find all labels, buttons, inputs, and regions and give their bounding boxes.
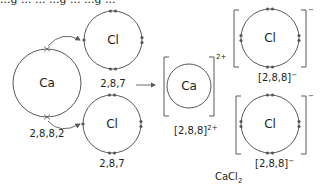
electron-dot <box>109 9 112 12</box>
chloride-ion-bottom: Cl − [2,8,8]− <box>236 92 314 169</box>
electron-dot <box>114 9 117 12</box>
calcium-ion-symbol: Ca <box>181 79 197 93</box>
chloride-top-configuration: [2,8,8]− <box>258 71 297 83</box>
electron-dot <box>239 34 242 37</box>
chlorine-top-configuration: 2,8,7 <box>100 78 125 89</box>
electron-dot <box>271 151 274 154</box>
chloride-top-symbol: Cl <box>264 31 276 45</box>
calcium-configuration: 2,8,8,2 <box>30 128 65 139</box>
electron-dot <box>297 120 300 123</box>
chlorine-top-symbol: Cl <box>107 33 119 47</box>
chloride-bottom-right-bracket <box>301 96 306 154</box>
electron-dot <box>239 39 242 42</box>
electron-dot <box>266 93 269 96</box>
electron-dot <box>139 125 142 128</box>
chloride-bottom-configuration: [2,8,8]− <box>255 157 294 169</box>
chlorine-bottom-symbol: Cl <box>106 117 118 131</box>
chlorine-atom-top: Cl 2,8,7 <box>82 9 143 89</box>
electron-dot <box>81 122 84 125</box>
calcium-ion: Ca 2+ [2,8,8]2+ <box>164 53 226 136</box>
ionic-bonding-diagram: ...g ... ... ...g ... ...g ... Ca 2,8,8,… <box>0 0 320 194</box>
chlorine-bottom-configuration: 2,8,7 <box>99 158 124 169</box>
electron-dot <box>139 120 142 123</box>
electron-dot <box>239 120 242 123</box>
product-formula: CaCl2 <box>215 171 242 185</box>
electron-dot <box>271 93 274 96</box>
calcium-ion-charge: 2+ <box>216 53 226 61</box>
chloride-top-charge: − <box>308 6 314 14</box>
calcium-ion-right-bracket <box>209 57 214 116</box>
electron-dot <box>140 36 143 39</box>
caption-fragment: ...g ... ... ...g ... ...g ... <box>0 0 116 6</box>
calcium-ion-configuration: [2,8,8]2+ <box>174 124 218 136</box>
electron-dot <box>271 7 274 10</box>
electron-dot <box>271 65 274 68</box>
calcium-symbol: Ca <box>39 76 55 90</box>
electron-dot <box>114 67 117 70</box>
electron-dot <box>266 7 269 10</box>
electron-dot <box>297 34 300 37</box>
chloride-bottom-charge: − <box>308 92 314 100</box>
calcium-atom: Ca 2,8,8,2 <box>13 47 81 140</box>
chloride-top-left-bracket <box>234 10 239 67</box>
electron-dot <box>266 65 269 68</box>
calcium-ion-left-bracket <box>164 57 169 116</box>
electron-dot <box>113 151 116 154</box>
chloride-bottom-left-bracket <box>236 96 241 154</box>
chloride-ion-top: Cl − [2,8,8]− <box>234 6 314 83</box>
chloride-bottom-symbol: Cl <box>264 117 276 131</box>
electron-dot <box>82 38 85 41</box>
electron-transfer-arrow-top <box>48 36 80 46</box>
electron-dot <box>108 151 111 154</box>
electron-dot <box>297 125 300 128</box>
electron-dot <box>109 67 112 70</box>
electron-dot <box>108 93 111 96</box>
chloride-top-right-bracket <box>301 10 306 67</box>
electron-dot <box>266 151 269 154</box>
electron-dot <box>239 125 242 128</box>
electron-dot <box>113 93 116 96</box>
electron-dot <box>297 39 300 42</box>
electron-dot <box>140 41 143 44</box>
chlorine-atom-bottom: Cl 2,8,7 <box>81 93 142 169</box>
